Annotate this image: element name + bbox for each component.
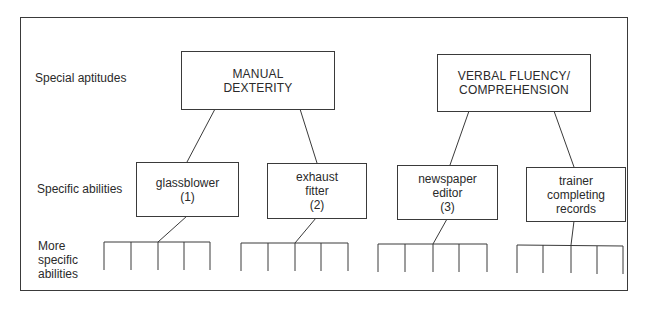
comb-newspaper-editor xyxy=(378,219,487,272)
connector-verbal-newspaper xyxy=(450,111,469,165)
ability-box-glassblower: glassblower (1) xyxy=(136,162,239,217)
row-label-special-aptitudes: Special aptitudes xyxy=(35,71,126,85)
tree-connectors xyxy=(0,0,659,314)
comb-glassblower xyxy=(104,216,210,270)
ability-box-trainer-completing-records: trainer completing records xyxy=(526,167,626,222)
ability-box-newspaper-editor: newspaper editor (3) xyxy=(397,165,498,220)
connector-manual-glassblower xyxy=(187,109,215,162)
aptitude-box-manual-dexterity: MANUAL DEXTERITY xyxy=(181,51,335,110)
row-label-specific-abilities: Specific abilities xyxy=(37,182,122,196)
comb-trainer xyxy=(517,221,623,274)
aptitude-box-verbal-fluency: VERBAL FLUENCY/ COMPREHENSION xyxy=(437,54,591,112)
comb-exhaust-fitter xyxy=(241,218,348,271)
connector-verbal-trainer xyxy=(554,111,574,167)
row-label-more-specific-abilities: More specific abilities xyxy=(38,239,78,281)
connector-manual-exhaust xyxy=(300,109,317,163)
ability-box-exhaust-fitter: exhaust fitter (2) xyxy=(267,163,367,219)
